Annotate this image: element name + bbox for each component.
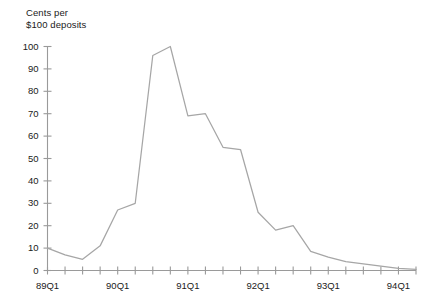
y-tick-label: 90 (28, 63, 39, 74)
x-tick-label: 93Q1 (317, 280, 340, 291)
x-axis-labels: 89Q190Q191Q192Q193Q194Q1 (36, 280, 410, 291)
y-tick-label: 40 (28, 175, 39, 186)
y-axis-labels: 0102030405060708090100 (23, 41, 39, 276)
y-tick-label: 50 (28, 153, 39, 164)
y-tick-label: 70 (28, 108, 39, 119)
chart-container: Cents per $100 deposits 89Q190Q191Q192Q1… (0, 0, 437, 302)
x-tick-label: 89Q1 (36, 280, 59, 291)
data-series-line (48, 47, 417, 270)
y-tick-label: 10 (28, 242, 39, 253)
y-tick-label: 80 (28, 85, 39, 96)
x-tick-label: 90Q1 (106, 280, 129, 291)
x-tick-label: 94Q1 (387, 280, 410, 291)
x-tick-label: 91Q1 (176, 280, 199, 291)
y-tick-label: 30 (28, 197, 39, 208)
y-tick-label: 60 (28, 130, 39, 141)
y-tick-label: 100 (23, 41, 39, 52)
line-chart-plot: 89Q190Q191Q192Q193Q194Q1 010203040506070… (0, 0, 437, 302)
x-tick-label: 92Q1 (246, 280, 269, 291)
y-tick-label: 0 (33, 265, 38, 276)
y-tick-label: 20 (28, 220, 39, 231)
